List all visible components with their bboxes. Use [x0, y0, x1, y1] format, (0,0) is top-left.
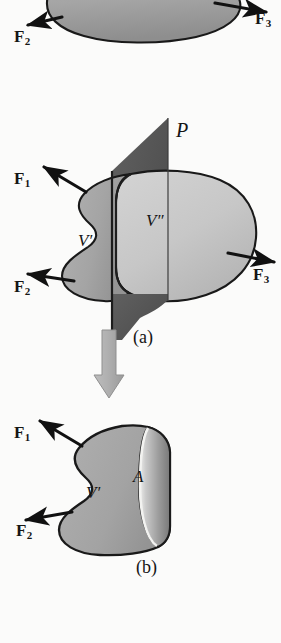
label-volume-v-prime-panel-a: V′ [78, 232, 92, 249]
label-force-f2-top: F2 [14, 28, 30, 47]
flow-arrow-down [94, 330, 124, 398]
panel-a-force-arrow-f1 [44, 167, 86, 192]
label-force-f3-panel-a: F3 [253, 266, 269, 285]
figure-canvas: F2 F3 P F1 F2 F3 V′ V″ (a) F1 F2 V′ A (b… [0, 0, 281, 643]
body-right-lobe [116, 171, 256, 302]
label-area-a: A [133, 468, 143, 485]
caption-a: (a) [133, 328, 153, 346]
label-force-f2-panel-a: F2 [14, 278, 30, 297]
label-force-f3-top: F3 [255, 10, 271, 29]
label-force-f1-panel-b: F1 [14, 424, 30, 443]
label-force-f1-panel-a: F1 [14, 170, 30, 189]
figure-graphics [0, 0, 281, 643]
label-plane-p: P [176, 120, 188, 140]
panel-top-graphics [28, 0, 266, 43]
label-volume-v-double-prime: V″ [146, 212, 163, 229]
top-body-blob [47, 0, 240, 43]
caption-b: (b) [136, 558, 157, 576]
label-force-f2-panel-b: F2 [16, 522, 32, 541]
label-volume-v-prime-panel-b: V′ [86, 484, 100, 501]
panel-b-force-arrow-f1 [40, 421, 82, 446]
